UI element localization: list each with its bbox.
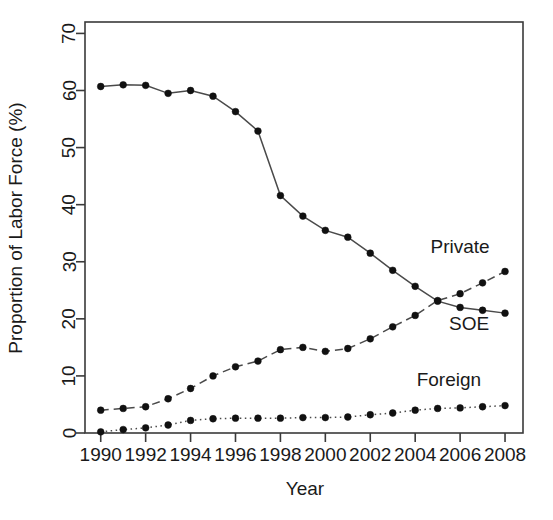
data-point-foreign <box>120 426 127 433</box>
data-point-foreign <box>142 424 149 431</box>
x-axis-title: Year <box>286 478 325 499</box>
x-tick-label: 1994 <box>169 444 212 465</box>
data-point-private <box>187 385 194 392</box>
data-point-private <box>97 407 104 414</box>
x-tick-label: 2000 <box>304 444 346 465</box>
data-point-foreign <box>255 415 262 422</box>
data-point-foreign <box>97 428 104 435</box>
data-point-foreign <box>457 404 464 411</box>
series-line-soe <box>101 85 505 313</box>
data-point-foreign <box>210 415 217 422</box>
data-point-foreign <box>299 414 306 421</box>
x-tick-label: 2008 <box>484 444 526 465</box>
data-point-private <box>457 290 464 297</box>
data-point-foreign <box>232 415 239 422</box>
y-tick-label: 10 <box>59 365 80 386</box>
y-tick-label: 20 <box>59 308 80 329</box>
data-point-private <box>479 279 486 286</box>
data-point-soe <box>165 90 172 97</box>
data-point-foreign <box>367 411 374 418</box>
data-point-private <box>232 363 239 370</box>
chart-canvas: 010203040506070 199019921994199619982000… <box>0 0 553 520</box>
data-point-soe <box>277 192 284 199</box>
data-point-private <box>299 344 306 351</box>
x-tick-label: 2006 <box>439 444 481 465</box>
data-point-foreign <box>165 422 172 429</box>
series-label-private: Private <box>431 236 490 257</box>
data-point-foreign <box>389 410 396 417</box>
data-point-private <box>277 346 284 353</box>
data-point-private <box>389 323 396 330</box>
y-tick-label: 40 <box>59 194 80 215</box>
series-label-soe: SOE <box>449 313 489 334</box>
data-point-private <box>344 345 351 352</box>
x-tick-label: 1990 <box>80 444 122 465</box>
data-point-foreign <box>322 414 329 421</box>
x-tick-label: 1998 <box>259 444 301 465</box>
data-point-soe <box>120 81 127 88</box>
y-tick-label: 50 <box>59 137 80 158</box>
data-point-soe <box>322 227 329 234</box>
series-label-foreign: Foreign <box>417 369 481 390</box>
data-point-foreign <box>479 403 486 410</box>
data-point-soe <box>97 83 104 90</box>
data-point-private <box>412 312 419 319</box>
data-point-foreign <box>187 417 194 424</box>
data-point-soe <box>142 82 149 89</box>
y-tick-label: 30 <box>59 251 80 272</box>
y-tick-label: 60 <box>59 80 80 101</box>
data-point-private <box>255 358 262 365</box>
data-point-soe <box>344 234 351 241</box>
data-point-private <box>120 405 127 412</box>
data-point-private <box>434 297 441 304</box>
x-tick-label: 2004 <box>394 444 437 465</box>
data-point-soe <box>255 128 262 135</box>
data-point-soe <box>389 267 396 274</box>
data-point-private <box>165 395 172 402</box>
data-point-foreign <box>277 415 284 422</box>
y-axis-title: Proportion of Labor Force (%) <box>5 102 26 353</box>
y-axis-ticks: 010203040506070 <box>59 23 86 438</box>
data-point-soe <box>187 87 194 94</box>
y-tick-label: 70 <box>59 23 80 44</box>
data-point-private <box>367 335 374 342</box>
data-point-foreign <box>502 402 509 409</box>
data-point-foreign <box>344 414 351 421</box>
data-point-foreign <box>434 405 441 412</box>
data-point-soe <box>210 93 217 100</box>
data-point-soe <box>232 108 239 115</box>
data-point-foreign <box>412 407 419 414</box>
x-tick-label: 1992 <box>125 444 167 465</box>
data-point-soe <box>367 250 374 257</box>
data-point-private <box>502 268 509 275</box>
data-point-soe <box>412 283 419 290</box>
series-annotations: PrivateSOEForeign <box>417 236 490 390</box>
x-axis-ticks: 1990199219941996199820002002200420062008 <box>80 433 527 465</box>
data-point-soe <box>457 304 464 311</box>
data-point-soe <box>299 213 306 220</box>
data-point-soe <box>502 310 509 317</box>
y-tick-label: 0 <box>59 428 80 439</box>
data-point-private <box>142 403 149 410</box>
data-point-private <box>210 373 217 380</box>
x-tick-label: 2002 <box>349 444 391 465</box>
chart-figure: 010203040506070 199019921994199619982000… <box>0 0 553 520</box>
data-point-private <box>322 348 329 355</box>
x-tick-label: 1996 <box>214 444 256 465</box>
